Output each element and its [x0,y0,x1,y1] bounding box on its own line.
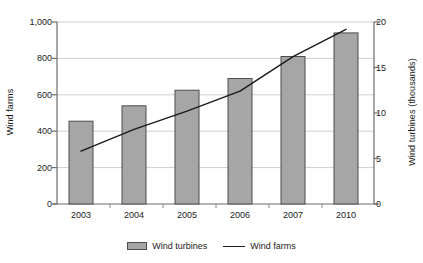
x-tick-2006: 2006 [230,210,250,220]
line-swatch-icon [223,246,245,247]
legend-label-wind-farms: Wind farms [250,241,296,251]
x-tick-2003: 2003 [71,210,91,220]
bar-swatch-icon [127,242,147,250]
x-tick-2007: 2007 [283,210,303,220]
chart-container: Wind farms Wind turbines (thousands) 1,0… [0,0,423,263]
legend-item-wind-farms[interactable]: Wind farms [223,241,296,251]
x-axis-ticks: 2003 2004 2005 2006 2007 2010 [0,0,423,263]
legend-label-wind-turbines: Wind turbines [152,241,207,251]
legend-item-wind-turbines[interactable]: Wind turbines [127,241,207,251]
chart-legend: Wind turbines Wind farms [0,241,423,251]
x-tick-2005: 2005 [177,210,197,220]
x-tick-2004: 2004 [124,210,144,220]
x-tick-2010: 2010 [336,210,356,220]
